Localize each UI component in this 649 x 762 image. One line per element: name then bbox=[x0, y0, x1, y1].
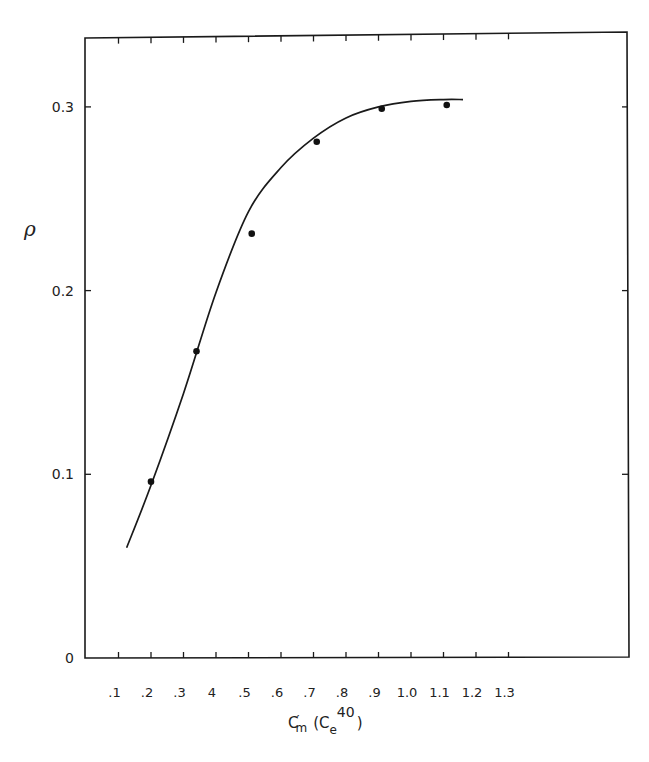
chart: .1.2.34.5.6.7.8.91.01.11.21.3 00.10.20.3… bbox=[0, 0, 649, 762]
x-tick-label: .1 bbox=[108, 685, 120, 700]
x-tick-label: .5 bbox=[238, 685, 250, 700]
x-tick-label: 1.3 bbox=[494, 685, 515, 700]
data-point bbox=[193, 348, 200, 355]
y-axis-ticks: 00.10.20.3 bbox=[52, 99, 628, 666]
y-tick-label: 0 bbox=[65, 650, 74, 666]
x-tick-label: .2 bbox=[141, 685, 153, 700]
x-tick-label: .9 bbox=[368, 685, 380, 700]
y-tick-label: 0.2 bbox=[52, 283, 74, 299]
x-axis-ticks: .1.2.34.5.6.7.8.91.01.11.21.3 bbox=[108, 33, 515, 700]
fitted-curve bbox=[127, 99, 463, 547]
x-tick-label: 4 bbox=[208, 685, 216, 700]
x-tick-label: .6 bbox=[271, 685, 283, 700]
x-tick-label: 1.2 bbox=[462, 685, 483, 700]
data-point bbox=[248, 230, 255, 237]
x-tick-label: .8 bbox=[336, 685, 348, 700]
x-tick-label: 1.1 bbox=[429, 685, 450, 700]
y-axis-title: ρ bbox=[23, 217, 36, 241]
data-points bbox=[148, 102, 450, 485]
x-axis-title: C′m(Ce40) bbox=[288, 704, 363, 737]
x-tick-label: .7 bbox=[303, 685, 315, 700]
data-point bbox=[443, 102, 450, 109]
data-point bbox=[148, 478, 155, 485]
x-tick-label: .3 bbox=[173, 685, 185, 700]
y-tick-label: 0.3 bbox=[52, 99, 74, 115]
y-tick-label: 0.1 bbox=[52, 466, 74, 482]
data-point bbox=[313, 139, 320, 146]
curve-path bbox=[127, 99, 463, 547]
plot-frame bbox=[85, 32, 629, 658]
axes-box bbox=[85, 32, 629, 658]
x-tick-label: 1.0 bbox=[397, 685, 418, 700]
data-point bbox=[378, 105, 385, 112]
